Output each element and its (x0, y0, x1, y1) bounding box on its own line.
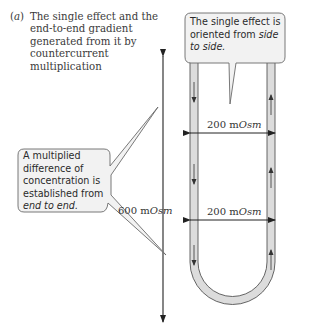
horizontal-upper-value: 200 m (207, 119, 239, 130)
horizontal-measure-lower-label: 200 mOsm (207, 206, 262, 217)
vertical-measure-value: 600 m (118, 205, 150, 216)
callout-left-plain: A multiplied difference of concentration… (23, 150, 103, 199)
horizontal-lower-value: 200 m (207, 206, 239, 217)
horizontal-measure-upper-label: 200 mOsm (207, 119, 262, 130)
vertical-measure-unit: Osm (150, 205, 173, 216)
vertical-measure-label: 600 mOsm (118, 205, 173, 216)
horizontal-lower-unit: Osm (239, 206, 262, 217)
callout-top-right-text: The single effect is oriented from side … (190, 16, 284, 54)
callout-left-text: A multiplied difference of concentration… (23, 150, 111, 213)
horizontal-upper-unit: Osm (239, 119, 262, 130)
callout-left-italic: end to end. (23, 200, 78, 211)
